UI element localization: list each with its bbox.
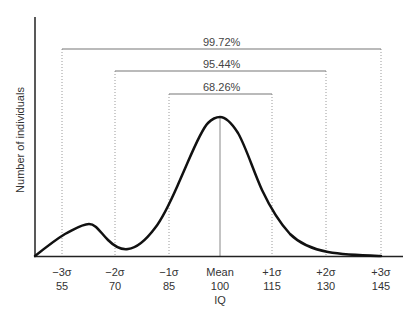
range-label-68-26: 68.26% [203,81,241,93]
tick-value-2: 85 [163,280,175,292]
tick-sigma-1: −2σ [105,266,125,278]
range-label-95-44: 95.44% [203,58,241,70]
tick-sigma-4: +1σ [262,266,282,278]
chart: 99.72% 95.44% 68.26% −3σ −2σ −1σ Mean +1… [0,0,418,322]
distribution-curve [35,117,381,256]
tick-value-5: 130 [317,280,335,292]
tick-value-0: 55 [56,280,68,292]
tick-value-3: 100 [211,280,229,292]
tick-sigma-2: −1σ [159,266,179,278]
tick-value-1: 70 [109,280,121,292]
x-tick-labels: −3σ −2σ −1σ Mean +1σ +2σ +3σ 55 70 85 10… [52,266,391,306]
x-axis-label: IQ [214,294,226,306]
tick-sigma-3: Mean [206,266,234,278]
range-label-99-72: 99.72% [203,36,241,48]
tick-sigma-6: +3σ [371,266,391,278]
tick-value-6: 145 [372,280,390,292]
tick-sigma-0: −3σ [52,266,72,278]
tick-sigma-5: +2σ [316,266,336,278]
tick-value-4: 115 [263,280,281,292]
y-axis-label: Number of individuals [14,87,26,193]
